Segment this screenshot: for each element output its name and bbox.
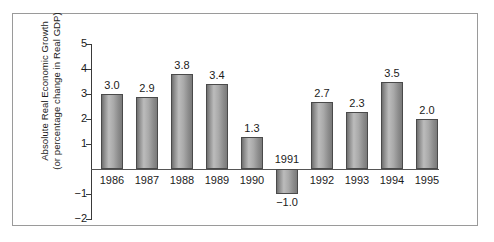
y-axis-tick-label: 3: [57, 87, 87, 99]
bar[interactable]: [206, 84, 228, 169]
x-axis-category-label: 1990: [230, 174, 274, 186]
bar-value-label: −1.0: [267, 196, 307, 208]
bar[interactable]: [346, 112, 368, 170]
x-axis-category-label: 1995: [405, 174, 449, 186]
bar-value-label: 2.3: [337, 97, 377, 109]
bar[interactable]: [276, 169, 298, 194]
bar-value-label: 2.9: [127, 82, 167, 94]
bar[interactable]: [416, 119, 438, 169]
bar[interactable]: [101, 94, 123, 169]
bar[interactable]: [136, 97, 158, 170]
y-axis-tick-label: 4: [57, 62, 87, 74]
bar-value-label: 1.3: [232, 122, 272, 134]
y-axis-tick-label: 1: [57, 137, 87, 149]
y-axis-tick-label: −2: [57, 212, 87, 224]
plot-area: 54321−1−2 3.02.93.83.41.3−1.02.72.33.52.…: [91, 42, 439, 222]
bar-value-label: 2.7: [302, 87, 342, 99]
bar-value-label: 3.5: [372, 67, 412, 79]
bar-value-label: 3.8: [162, 59, 202, 71]
bar-value-label: 2.0: [407, 104, 447, 116]
chart-figure: Absolute Real Economic Growth (or percen…: [0, 0, 494, 242]
x-axis-category-label: 1991: [265, 153, 309, 165]
y-axis-tick-label: −1: [57, 187, 87, 199]
y-axis-tick-label: 2: [57, 112, 87, 124]
bar[interactable]: [311, 102, 333, 170]
bar[interactable]: [381, 82, 403, 170]
bar[interactable]: [171, 74, 193, 169]
y-axis-tick-label: 5: [57, 37, 87, 49]
chart-frame: Absolute Real Economic Growth (or percen…: [12, 13, 478, 226]
bar-value-label: 3.0: [92, 79, 132, 91]
zero-baseline: [91, 169, 439, 170]
bar-value-label: 3.4: [197, 69, 237, 81]
y-axis-title-line-1: Absolute Real Economic Growth: [39, 1, 51, 181]
bar[interactable]: [241, 137, 263, 170]
